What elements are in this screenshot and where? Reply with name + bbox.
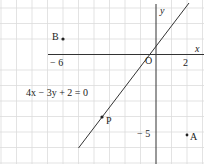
point-a-label: A xyxy=(190,131,198,142)
tick-label-2: 2 xyxy=(183,57,188,68)
coordinate-diagram: y x O − 6 2 − 5 4x − 3y + 2 = 0 B P A xyxy=(0,0,204,164)
point-a xyxy=(186,134,189,137)
x-axis-label: x xyxy=(194,43,200,54)
point-b-label: B xyxy=(52,31,59,42)
tick-label-neg6: − 6 xyxy=(50,57,63,68)
line-4x-3y-2 xyxy=(79,3,190,148)
y-axis-label: y xyxy=(159,5,165,16)
point-p xyxy=(100,115,103,118)
origin-label: O xyxy=(145,55,152,66)
tick-label-neg5: − 5 xyxy=(137,128,150,139)
grid xyxy=(0,0,204,164)
equation-label: 4x − 3y + 2 = 0 xyxy=(26,87,88,98)
point-p-label: P xyxy=(106,115,112,126)
point-b xyxy=(61,37,64,40)
